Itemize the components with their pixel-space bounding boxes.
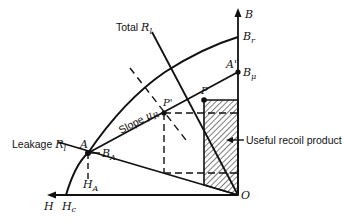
br-label: Br bbox=[242, 30, 256, 45]
point-p bbox=[201, 97, 207, 103]
pprime-label: P' bbox=[162, 97, 172, 108]
h-axis-arrow-icon bbox=[47, 192, 56, 199]
useful-recoil-region bbox=[204, 100, 238, 195]
total-rl-label: Total Rl bbox=[116, 21, 152, 36]
recoil-diagram: B Br A' Bμ P P' Total Rl Slope μR Leakag… bbox=[0, 0, 344, 221]
origin-label: O bbox=[241, 189, 250, 202]
a-label: A bbox=[79, 138, 88, 151]
leakage-rl-label: Leakage Rl bbox=[12, 138, 67, 153]
hc-label: Hc bbox=[61, 200, 77, 214]
useful-recoil-label: Useful recoil product bbox=[246, 134, 342, 146]
point-pprime bbox=[161, 110, 166, 115]
b-axis-arrow-icon bbox=[235, 8, 242, 17]
ha-label: HA bbox=[82, 178, 99, 193]
ba-label: BA bbox=[101, 147, 116, 162]
aprime-label: A' bbox=[225, 58, 237, 71]
p-label: P bbox=[200, 85, 208, 96]
h-axis-label: H bbox=[43, 200, 54, 213]
bmu-label: Bμ bbox=[242, 66, 256, 81]
b-axis-label: B bbox=[244, 8, 253, 21]
slope-label: Slope μR bbox=[116, 105, 160, 138]
